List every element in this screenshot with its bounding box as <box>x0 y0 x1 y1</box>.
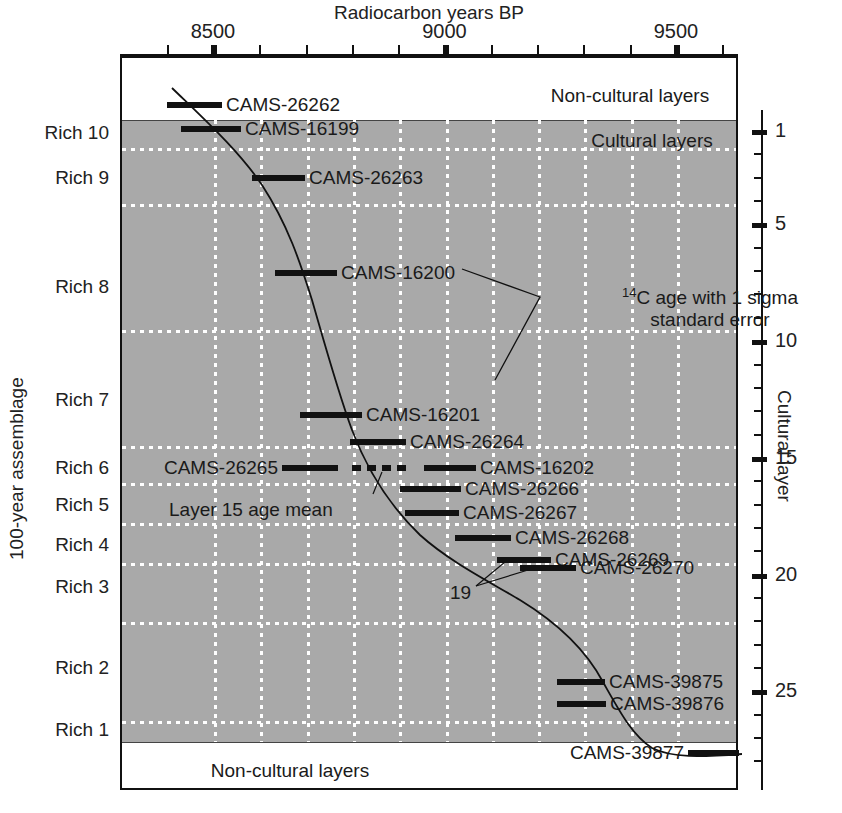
y2-tick-minor <box>754 737 763 739</box>
assemblage-label-rich-3: Rich 3 <box>4 576 109 598</box>
y2-tick-minor <box>754 364 763 366</box>
x-tick-minor <box>167 45 169 54</box>
horizontal-gridline <box>122 330 736 333</box>
y2-tick-label: 25 <box>775 679 797 702</box>
sample-bar <box>688 750 739 756</box>
y2-tick-label: 15 <box>775 445 797 468</box>
assemblage-label-rich-10: Rich 10 <box>4 122 109 144</box>
sample-bar <box>455 535 511 541</box>
y2-tick-label: 1 <box>775 119 786 142</box>
vertical-gridline <box>353 120 356 742</box>
assemblage-label-rich-4: Rich 4 <box>4 534 109 556</box>
y2-tick-minor <box>754 434 763 436</box>
c14-annotation-line2: standard error <box>650 309 769 330</box>
assemblage-label-rich-6: Rich 6 <box>4 457 109 479</box>
sample-label: CAMS-26268 <box>515 527 629 549</box>
sample-bar <box>424 465 476 471</box>
y2-tick-minor <box>754 200 763 202</box>
y2-tick-major <box>752 223 767 228</box>
x-tick-minor <box>352 45 354 54</box>
sample-label: CAMS-39876 <box>610 693 724 715</box>
y2-tick-major <box>752 574 767 579</box>
vertical-gridline <box>307 120 310 742</box>
sample-bar <box>252 175 305 181</box>
y2-tick-minor <box>754 527 763 529</box>
x-tick-label: 8500 <box>191 20 236 43</box>
y2-tick-minor <box>754 480 763 482</box>
sample-label: CAMS-39877 <box>570 742 684 764</box>
sample-bar <box>167 102 222 108</box>
y2-tick-minor <box>754 270 763 272</box>
horizontal-gridline <box>122 204 736 207</box>
y2-tick-label: 10 <box>775 329 797 352</box>
y2-tick-minor <box>754 153 763 155</box>
assemblage-label-rich-5: Rich 5 <box>4 494 109 516</box>
y2-tick-minor <box>754 620 763 622</box>
horizontal-gridline <box>122 622 736 625</box>
sample-bar <box>300 412 362 418</box>
sample-bar <box>497 557 551 563</box>
sample-bar <box>557 679 605 685</box>
vertical-gridline <box>538 120 541 742</box>
x-tick-major <box>211 45 217 56</box>
y2-tick-major <box>752 130 767 135</box>
sample-label: CAMS-26265 <box>164 457 278 479</box>
layer19-annotation: 19 <box>450 582 471 604</box>
y2-tick-minor <box>754 714 763 716</box>
x-tick-minor <box>306 45 308 54</box>
x-tick-minor <box>722 45 724 54</box>
y2-tick-major <box>752 340 767 345</box>
y2-tick-minor <box>754 177 763 179</box>
x-tick-minor <box>398 45 400 54</box>
sample-bar <box>400 486 461 492</box>
vertical-gridline <box>399 120 402 742</box>
vertical-gridline <box>260 120 263 742</box>
c14-superscript: 14 <box>622 285 636 300</box>
y2-tick-minor <box>754 504 763 506</box>
x-tick-minor <box>630 45 632 54</box>
radiocarbon-chart: Radiocarbon years BP 100-year assemblage… <box>0 0 842 813</box>
sample-label: CAMS-16199 <box>245 118 359 140</box>
layer15-mean-annotation: Layer 15 age mean <box>169 499 333 521</box>
y2-tick-minor <box>754 644 763 646</box>
sample-bar <box>181 126 241 132</box>
assemblage-label-rich-7: Rich 7 <box>4 389 109 411</box>
y2-tick-minor <box>754 387 763 389</box>
sigma-annotation: 14C age with 1 sigma standard error <box>605 286 815 330</box>
assemblage-label-rich-1: Rich 1 <box>4 719 109 741</box>
sample-label: CAMS-16202 <box>480 457 594 479</box>
sample-bar <box>282 465 338 471</box>
band-bottom-caption: Non-cultural layers <box>211 760 369 782</box>
top-axis: 850090009500 <box>120 54 738 56</box>
sample-label: CAMS-26264 <box>410 431 524 453</box>
c14-annotation-line1: C age with 1 sigma <box>636 287 798 308</box>
horizontal-gridline <box>122 523 736 526</box>
sample-label: CAMS-26262 <box>226 94 340 116</box>
x-tick-minor <box>491 45 493 54</box>
x-tick-major <box>674 45 680 56</box>
band-top-caption: Non-cultural layers <box>551 85 709 107</box>
y2-tick-minor <box>754 247 763 249</box>
y2-tick-minor <box>754 760 763 762</box>
y2-tick-label: 5 <box>775 212 786 235</box>
vertical-gridline <box>584 120 587 742</box>
y2-tick-major <box>752 690 767 695</box>
vertical-gridline <box>677 120 680 742</box>
x-tick-minor <box>259 45 261 54</box>
x-tick-label: 9000 <box>422 20 467 43</box>
y2-tick-minor <box>754 597 763 599</box>
sample-label: CAMS-26267 <box>463 502 577 524</box>
assemblage-label-rich-8: Rich 8 <box>4 276 109 298</box>
x-tick-minor <box>537 45 539 54</box>
vertical-gridline <box>631 120 634 742</box>
sample-label: CAMS-26263 <box>309 167 423 189</box>
vertical-gridline <box>214 120 217 742</box>
y2-tick-label: 20 <box>775 562 797 585</box>
x-tick-label: 9500 <box>654 20 699 43</box>
x-tick-major <box>443 45 449 56</box>
sample-bar <box>275 270 337 276</box>
sample-label: CAMS-16200 <box>341 262 455 284</box>
sample-bar <box>520 565 576 571</box>
x-tick-minor <box>583 45 585 54</box>
sample-bar <box>350 439 406 445</box>
